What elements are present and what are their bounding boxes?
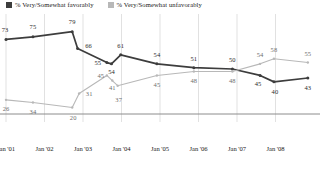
data-label: 45 bbox=[98, 73, 105, 80]
data-point bbox=[155, 62, 158, 65]
x-tick-label: Jan '02 bbox=[35, 146, 53, 153]
data-point bbox=[116, 85, 118, 87]
data-point bbox=[272, 80, 275, 83]
data-label: 43 bbox=[304, 85, 311, 92]
legend-entry-unfavorable: % Very/Somewhat unfavorably bbox=[108, 2, 202, 9]
data-label: 55 bbox=[95, 59, 102, 66]
data-point bbox=[78, 92, 80, 94]
data-point bbox=[5, 99, 7, 101]
plot-area: 7375796655546154515045404326342031454137… bbox=[0, 14, 320, 138]
data-label: 20 bbox=[70, 114, 77, 121]
data-label: 34 bbox=[30, 109, 37, 116]
x-tick-label: Jan '05 bbox=[151, 146, 169, 153]
legend-swatch-favorable bbox=[6, 2, 12, 8]
data-point bbox=[32, 101, 34, 103]
data-point bbox=[105, 61, 108, 64]
data-point bbox=[192, 66, 195, 69]
data-label: 26 bbox=[3, 106, 10, 113]
data-label: 51 bbox=[191, 55, 198, 62]
data-point bbox=[110, 62, 113, 65]
data-label: 45 bbox=[255, 81, 262, 88]
data-label: 61 bbox=[117, 43, 124, 50]
data-point bbox=[273, 58, 275, 60]
legend-swatch-unfavorable bbox=[108, 2, 114, 8]
data-label: 48 bbox=[191, 77, 198, 84]
data-label: 66 bbox=[85, 43, 92, 50]
data-label: 48 bbox=[229, 77, 236, 84]
legend-label-favorable: % Very/Somewhat favorably bbox=[15, 2, 94, 9]
legend-label-unfavorable: % Very/Somewhat unfavorably bbox=[117, 2, 202, 9]
data-label: 40 bbox=[272, 89, 279, 96]
data-point bbox=[307, 61, 309, 63]
x-tick-label: Jan '08 bbox=[266, 146, 284, 153]
series-layer bbox=[5, 30, 310, 109]
data-point bbox=[71, 106, 73, 108]
data-point bbox=[259, 74, 262, 77]
gridlines bbox=[6, 14, 276, 122]
data-label: 45 bbox=[154, 82, 161, 89]
data-point bbox=[76, 47, 79, 50]
x-axis-labels: Jan '01Jan '02Jan '03Jan '04Jan '05Jan '… bbox=[0, 146, 320, 160]
data-label: 50 bbox=[229, 57, 236, 64]
data-point bbox=[119, 53, 122, 56]
x-tick-label: Jan '01 bbox=[0, 146, 15, 153]
data-label: 58 bbox=[271, 46, 278, 53]
data-point bbox=[306, 77, 309, 80]
data-label: 55 bbox=[304, 50, 311, 57]
data-label: 73 bbox=[2, 27, 9, 34]
chart-container: % Very/Somewhat favorably % Very/Somewha… bbox=[0, 0, 320, 170]
x-tick-label: Jan '06 bbox=[189, 146, 207, 153]
data-point bbox=[156, 74, 158, 76]
data-point bbox=[259, 63, 261, 65]
data-label: 37 bbox=[115, 96, 122, 103]
data-point bbox=[31, 35, 34, 38]
data-point bbox=[5, 38, 8, 41]
x-tick-label: Jan '04 bbox=[112, 146, 130, 153]
legend-entry-favorable: % Very/Somewhat favorably bbox=[6, 2, 94, 9]
data-label: 79 bbox=[69, 18, 76, 25]
data-point bbox=[231, 68, 234, 71]
data-point bbox=[111, 79, 113, 81]
data-label: 54 bbox=[257, 52, 264, 59]
chart-legend: % Very/Somewhat favorably % Very/Somewha… bbox=[6, 2, 202, 9]
data-label: 75 bbox=[30, 24, 37, 31]
data-label: 41 bbox=[109, 84, 116, 91]
data-label: 54 bbox=[108, 69, 115, 76]
data-point bbox=[231, 70, 233, 72]
x-tick-label: Jan '07 bbox=[228, 146, 246, 153]
x-tick-label: Jan '03 bbox=[74, 146, 92, 153]
plot-svg bbox=[0, 14, 320, 138]
data-label: 54 bbox=[154, 52, 161, 59]
data-point bbox=[71, 30, 74, 33]
data-label: 31 bbox=[86, 91, 93, 98]
data-point bbox=[193, 70, 195, 72]
